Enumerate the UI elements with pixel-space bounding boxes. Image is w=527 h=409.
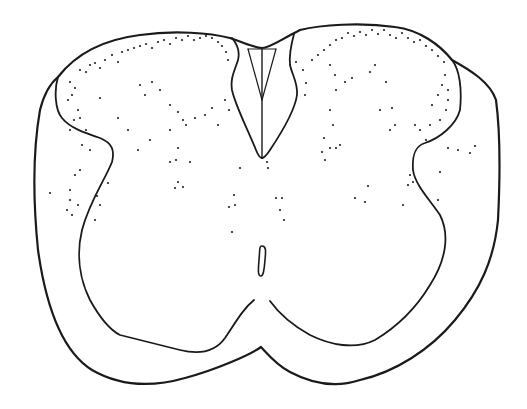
stipple-dot [228, 109, 230, 111]
stipple-dot [189, 161, 191, 163]
stipple-dot [231, 231, 233, 233]
stipple-dot [413, 41, 415, 43]
stipple-dot [187, 35, 189, 37]
stipple-dot [194, 117, 196, 119]
stipple-dot [354, 197, 356, 199]
stipple-dot [174, 187, 176, 189]
stipple-dot [402, 204, 404, 206]
stipple-dot [414, 124, 416, 126]
stipple-dot [89, 64, 91, 66]
stipple-dot [99, 67, 101, 69]
stipple-dot [283, 219, 285, 221]
stipple-dot [447, 147, 449, 149]
stipple-dot [409, 174, 411, 176]
stipple-dot [144, 94, 146, 96]
stipple-dot [71, 214, 73, 216]
stipple-dot [447, 99, 449, 101]
stipple-dot [175, 159, 177, 161]
stipple-dot [369, 71, 371, 73]
stipple-dot [401, 32, 403, 34]
stipple-dot [329, 147, 331, 149]
stipple-dot [205, 35, 207, 37]
stipple-dot [69, 129, 71, 131]
stipple-dot [311, 59, 313, 61]
stipple-dot [266, 161, 268, 163]
stipple-dot [334, 74, 336, 76]
stipple-dot [81, 144, 83, 146]
stipple-dot [329, 64, 331, 66]
stipple-dot [211, 37, 213, 39]
stipple-dot [199, 37, 201, 39]
stipple-dot [225, 51, 227, 53]
stipple-dot [437, 94, 439, 96]
stipple-dot [304, 94, 306, 96]
stipple-dot [217, 41, 219, 43]
stipple-dot [163, 39, 165, 41]
stipple-dot [117, 117, 119, 119]
stipple-dot [374, 64, 376, 66]
stipple-dot [437, 199, 439, 201]
stipple-dot [295, 61, 297, 63]
stipple-dot [211, 107, 213, 109]
stipple-dot [217, 124, 219, 126]
stipple-dot [341, 37, 343, 39]
stipple-dot [443, 61, 445, 63]
stipple-dot [335, 39, 337, 41]
stipple-dot [445, 109, 447, 111]
stipple-dot [275, 197, 277, 199]
stipple-dot [457, 149, 459, 151]
stipple-dot [99, 204, 101, 206]
stipple-dot [431, 49, 433, 51]
stipple-dot [127, 49, 129, 51]
stipple-dot [329, 44, 331, 46]
stipple-dot [177, 147, 179, 149]
stipple-dot [169, 129, 171, 131]
stipple-dot [133, 47, 135, 49]
stipple-dot [127, 129, 129, 131]
stipple-dot [85, 129, 87, 131]
stipple-dot [412, 181, 414, 183]
stipple-dot [67, 99, 69, 101]
stipple-dot [344, 81, 346, 83]
stipple-dot [389, 129, 391, 131]
stipple-dot [169, 43, 171, 45]
stipple-dot [389, 34, 391, 36]
stipple-dot [425, 139, 427, 141]
stipple-dot [335, 147, 337, 149]
stipple-dot [182, 186, 184, 188]
stipple-dot [425, 45, 427, 47]
stipple-dot [71, 94, 73, 96]
stipple-dot [234, 204, 236, 206]
stipple-dot [69, 189, 71, 191]
diagram-canvas [0, 0, 527, 409]
stipple-dot [407, 37, 409, 39]
stipple-dot [379, 109, 381, 111]
stipple-dot [305, 82, 307, 84]
stipple-dot [439, 119, 441, 121]
stipple-dot [228, 206, 230, 208]
stipple-dot [117, 61, 119, 63]
stipple-dot [321, 151, 323, 153]
stipple-dot [365, 34, 367, 36]
stipple-dot [239, 167, 241, 169]
stipple-dot [371, 29, 373, 31]
stipple-dot [137, 149, 139, 151]
stipple-dot [385, 81, 387, 83]
stipple-dot [79, 169, 81, 171]
stipple-dot [79, 69, 81, 71]
stipple-dot [139, 84, 141, 86]
stipple-dot [204, 114, 206, 116]
stipple-dot [69, 199, 71, 201]
stipple-dot [335, 89, 337, 91]
stipple-dot [394, 124, 396, 126]
spinal-cord-diagram [0, 0, 527, 409]
stipple-dot [111, 54, 113, 56]
stipple-dot [96, 195, 98, 197]
stipple-dot [395, 37, 397, 39]
stipple-dot [367, 185, 369, 187]
stipple-dot [77, 109, 79, 111]
stipple-dot [169, 161, 171, 163]
stipple-dot [439, 171, 441, 173]
stipple-dot [159, 89, 161, 91]
stipple-dot [323, 49, 325, 51]
